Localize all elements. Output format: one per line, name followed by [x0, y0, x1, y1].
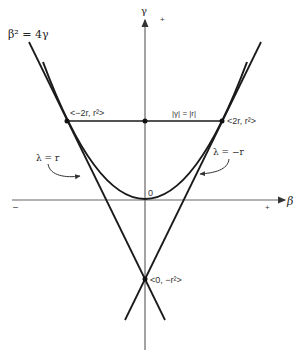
line-label-left: λ = r	[36, 153, 60, 163]
pointer-arrow-right	[200, 159, 229, 174]
beta-plus-label: +	[265, 203, 270, 212]
parabola-equation-label: β² = 4γ	[8, 28, 49, 41]
intersection-point-label: <0, −r²>	[150, 275, 182, 285]
point-left-tangent	[65, 119, 70, 124]
origin-label: 0	[148, 188, 153, 198]
gamma-plus-label: +	[160, 15, 165, 24]
line-label-right: λ = −r	[213, 147, 245, 157]
right-tangent-point-label: <2r, r²>	[227, 116, 256, 126]
diagram-canvas: β² = 4γ γ + β + – 0 <−2r, r²> <2r, r²> <…	[0, 0, 298, 353]
gamma-axis-label: γ	[141, 5, 147, 16]
beta-minus-label: –	[13, 202, 18, 212]
chord-label: |γ| = |r|	[172, 109, 196, 118]
pointer-arrow-left	[48, 164, 80, 177]
point-right-tangent	[220, 119, 225, 124]
point-intersection	[143, 277, 148, 282]
beta-axis-label: β	[286, 195, 293, 208]
point-chord-axis	[143, 119, 148, 124]
left-tangent-point-label: <−2r, r²>	[70, 108, 104, 118]
